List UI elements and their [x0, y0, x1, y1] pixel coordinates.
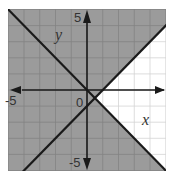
y-axis-label: y	[53, 26, 63, 44]
x-axis-label: x	[141, 111, 149, 128]
x-min-label: -5	[5, 93, 17, 108]
y-max-label: 5	[74, 10, 81, 25]
y-min-label: -5	[69, 155, 81, 170]
inequality-graph: 5 -5 0 -5 y x	[0, 0, 177, 178]
origin-label: 0	[76, 95, 83, 110]
